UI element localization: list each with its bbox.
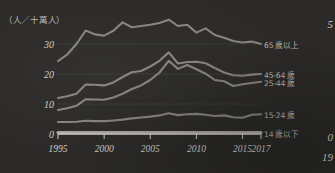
neighbor-year-partial: 19 — [322, 151, 333, 163]
y-tick-0: 0 — [18, 129, 54, 140]
x-tick-2005: 2005 — [141, 144, 160, 154]
line-chart-svg — [58, 14, 261, 134]
chart-figure: （人／十萬人） 0102030 199520002005201020152017… — [0, 0, 335, 173]
x-tick-2017: 2017 — [252, 144, 271, 154]
x-tick-2000: 2000 — [95, 144, 114, 154]
x-tick-1995: 1995 — [49, 144, 68, 154]
y-tick-30: 30 — [18, 39, 54, 50]
neighbor-zero-value: 0 — [328, 131, 334, 143]
y-tick-20: 20 — [18, 69, 54, 80]
x-tick-2015: 2015 — [233, 144, 252, 154]
legend-item-0: 65 歲以上 — [264, 39, 299, 50]
y-tick-10: 10 — [18, 99, 54, 110]
legend-item-3: 15-24 歲 — [264, 109, 295, 120]
x-tick-2010: 2010 — [187, 144, 206, 154]
plot-area — [58, 14, 261, 134]
neighbor-top-value: 5 — [328, 18, 334, 30]
legend-item-2: 25-44 歲 — [264, 76, 295, 87]
legend-item-4: 14 歲以下 — [264, 127, 299, 138]
